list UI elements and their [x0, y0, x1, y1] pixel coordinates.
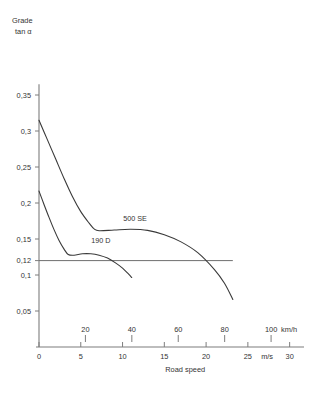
- x-axis-title: Road speed: [165, 365, 205, 374]
- x-axis-tick-label-ms: 25: [244, 352, 252, 361]
- series-label-500-se: 500 SE: [123, 214, 147, 223]
- chart-container: 0,050,10,120,150,20,250,30,35Gradetan α0…: [0, 0, 314, 393]
- x-axis-tick-label-ms: 5: [79, 352, 83, 361]
- y-axis-tick-label: 0,35: [17, 91, 31, 100]
- x-axis-tick-label-kmh: 20: [81, 325, 89, 334]
- y-axis-tick-label: 0,12: [17, 256, 31, 265]
- x-axis-tick-label-ms: 0: [37, 352, 41, 361]
- x-axis-tick-label-kmh: 60: [174, 325, 182, 334]
- x-axis-tick-label-kmh: 80: [221, 325, 229, 334]
- y-axis-tick-label: 0,3: [21, 127, 31, 136]
- series-curve-500-se: [39, 120, 233, 299]
- x-axis-tick-label-ms: 15: [160, 352, 168, 361]
- x-axis-tick-label-ms: 10: [118, 352, 126, 361]
- grade-vs-road-speed-chart: 0,050,10,120,150,20,250,30,35Gradetan α0…: [0, 0, 314, 393]
- y-axis-tick-label: 0,2: [21, 199, 31, 208]
- y-axis-tick-label: 0,15: [17, 235, 31, 244]
- y-axis-title-line2: tan α: [15, 27, 32, 36]
- x-axis-unit-ms: m/s: [261, 352, 273, 361]
- x-axis-tick-label-ms: 20: [202, 352, 210, 361]
- x-axis-tick-label-ms: 30: [286, 352, 294, 361]
- x-axis-unit-kmh: km/h: [281, 325, 297, 334]
- series-label-190-d: 190 D: [91, 236, 110, 245]
- y-axis-tick-label: 0,1: [21, 271, 31, 280]
- x-axis-tick-label-kmh: 100: [265, 325, 277, 334]
- x-axis-tick-label-kmh: 40: [128, 325, 136, 334]
- y-axis-tick-label: 0,25: [17, 163, 31, 172]
- y-axis-tick-label: 0,05: [17, 307, 31, 316]
- series-curve-190-d: [39, 191, 132, 277]
- y-axis-title-line1: Grade: [12, 16, 33, 25]
